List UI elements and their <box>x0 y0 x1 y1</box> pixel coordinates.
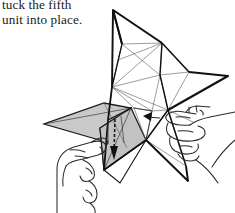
star-spike-right-edge <box>162 43 189 72</box>
star-spike-right <box>168 72 228 110</box>
star-spike-lower-right-edge <box>168 110 186 166</box>
tuck-arrow-left <box>143 112 160 121</box>
illustration-page: tuck the fifth unit into place. <box>0 0 235 213</box>
star-spike-top-fold <box>112 44 122 87</box>
shaded-flap <box>44 103 146 170</box>
tuck-arrow-left-head <box>143 112 152 121</box>
star-body <box>104 10 228 183</box>
right-hand <box>166 106 235 183</box>
star-body-inner-ridge <box>160 43 168 110</box>
star-spike-top-edge <box>112 10 113 87</box>
left-hand <box>57 138 108 213</box>
origami-figure <box>0 0 235 213</box>
